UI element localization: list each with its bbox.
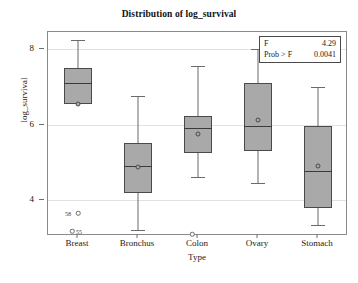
x-axis-title: Type: [47, 252, 347, 262]
median-line: [304, 171, 332, 172]
y-tick-label: 8: [30, 43, 35, 53]
y-axis: 468: [0, 31, 44, 235]
f-label: F: [264, 38, 274, 49]
stats-legend: F 4.29 Prob > F 0.0041: [259, 36, 341, 63]
x-tick-mark: [317, 234, 318, 238]
y-tick-label: 6: [30, 119, 35, 129]
y-tick-mark: [39, 48, 44, 49]
prob-value: 0.0041: [314, 49, 336, 60]
plot-area: 5855 F 4.29 Prob > F 0.0041: [47, 31, 347, 235]
x-tick-label-colon: Colon: [186, 238, 208, 248]
page-title: Distribution of log_survival: [0, 9, 358, 19]
x-tick-mark: [137, 234, 138, 238]
stats-row-f: F 4.29: [264, 38, 336, 49]
x-tick-label-breast: Breast: [66, 238, 89, 248]
stats-row-prob: Prob > F 0.0041: [264, 49, 336, 60]
mean-marker: [316, 164, 321, 169]
x-tick-label-ovary: Ovary: [246, 238, 269, 248]
y-tick-mark: [39, 199, 44, 200]
whisker-cap-bottom: [311, 225, 325, 226]
x-tick-mark: [257, 234, 258, 238]
y-tick-label: 4: [30, 194, 35, 204]
x-tick-label-stomach: Stomach: [301, 238, 333, 248]
f-value: 4.29: [322, 38, 336, 49]
x-tick-mark: [197, 234, 198, 238]
x-tick-label-bronchus: Bronchus: [120, 238, 155, 248]
whisker-cap-top: [311, 87, 325, 88]
y-tick-mark: [39, 124, 44, 125]
boxplot-figure: Distribution of log_survival log_surviva…: [0, 0, 358, 283]
x-tick-mark: [77, 234, 78, 238]
prob-label: Prob > F: [264, 49, 298, 60]
